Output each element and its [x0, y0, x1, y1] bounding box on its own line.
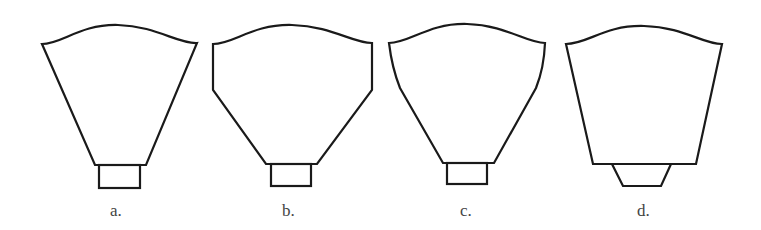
shape-c-base: [447, 163, 487, 184]
shape-a: a.: [42, 25, 197, 220]
shape-a-body: [42, 25, 197, 165]
label-d: d.: [637, 201, 650, 220]
label-b: b.: [282, 201, 295, 220]
shape-d-base: [612, 164, 671, 186]
label-a: a.: [110, 201, 122, 220]
figure-canvas: a. b. c. d.: [0, 0, 761, 230]
shape-c-body: [389, 24, 545, 163]
label-c: c.: [460, 201, 472, 220]
shape-d: d.: [566, 26, 722, 220]
shape-c: c.: [389, 24, 545, 220]
shape-b: b.: [213, 25, 372, 220]
shape-b-body: [213, 25, 372, 164]
shape-d-body: [566, 26, 722, 164]
shape-b-base: [271, 164, 311, 186]
shape-a-base: [99, 165, 140, 188]
